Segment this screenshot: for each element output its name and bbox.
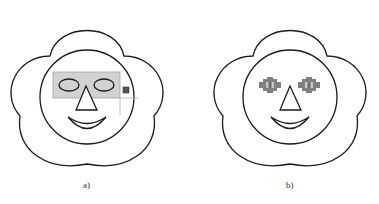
figure-a: [11, 31, 163, 166]
left-eye-pixelated: [259, 77, 281, 93]
caption-a: a): [83, 180, 90, 190]
right-eye-pixelated: [298, 77, 320, 93]
figure-canvas: [0, 0, 379, 204]
resize-handle[interactable]: [123, 87, 129, 93]
nose-triangle: [280, 86, 301, 110]
mouth: [68, 117, 106, 129]
caption-b: b): [286, 180, 294, 190]
figure-b: [214, 31, 366, 166]
mouth: [271, 117, 309, 129]
